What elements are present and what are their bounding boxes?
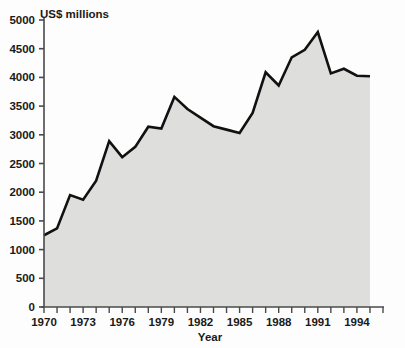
y-tick-label: 4000 (9, 71, 35, 83)
x-tick-label: 1973 (70, 316, 96, 328)
x-axis-title: Year (198, 331, 223, 343)
y-tick-label: 1500 (9, 215, 35, 227)
x-tick-label: 1976 (109, 316, 135, 328)
y-tick-label: 500 (16, 272, 35, 284)
y-tick-label: 2000 (9, 186, 35, 198)
x-tick-label: 1985 (227, 316, 253, 328)
y-tick-label: 4500 (9, 43, 35, 55)
chart-container: 0500100015002000250030003500400045005000… (0, 0, 405, 348)
x-tick-label: 1970 (31, 316, 57, 328)
y-tick-label: 2500 (9, 158, 35, 170)
y-tick-label: 1000 (9, 244, 35, 256)
y-tick-label: 0 (29, 301, 35, 313)
x-tick-label: 1982 (188, 316, 214, 328)
y-axis-unit-label: US$ millions (40, 8, 109, 20)
y-tick-label: 5000 (9, 14, 35, 26)
x-tick-label: 1991 (305, 316, 331, 328)
y-tick-label: 3500 (9, 100, 35, 112)
area-chart: 0500100015002000250030003500400045005000… (0, 0, 405, 348)
x-tick-label: 1988 (266, 316, 292, 328)
y-tick-label: 3000 (9, 129, 35, 141)
x-tick-label: 1994 (344, 316, 370, 328)
x-tick-label: 1979 (149, 316, 175, 328)
